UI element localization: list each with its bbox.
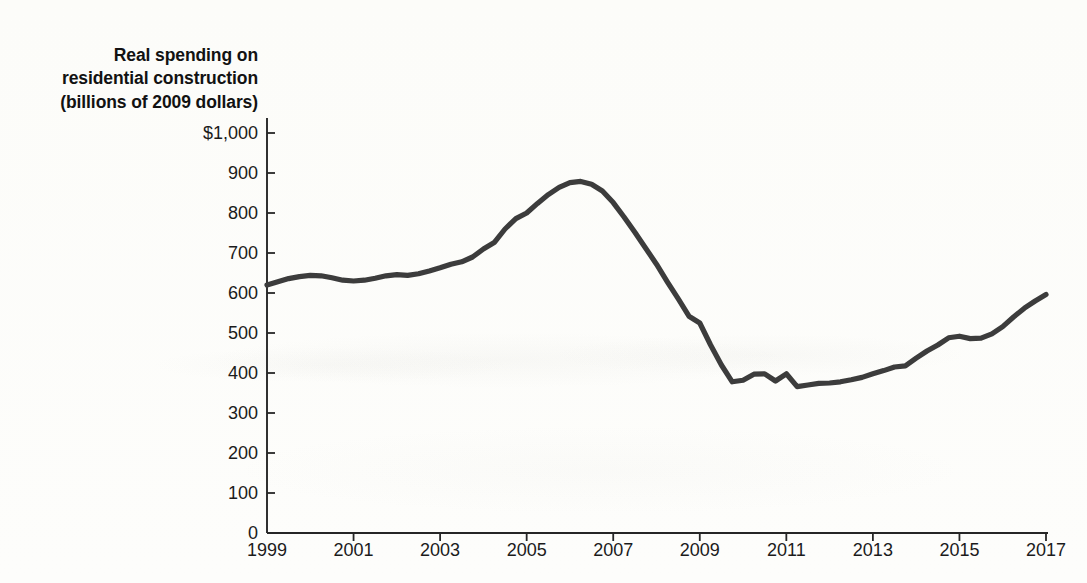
x-tick-label: 2009 [680, 540, 720, 561]
y-tick-label: 100 [150, 484, 258, 502]
y-tick-label: 0 [150, 524, 258, 542]
y-tick-label: 300 [150, 404, 258, 422]
x-tick-label: 2011 [767, 540, 806, 561]
x-tick-label: 2013 [853, 540, 893, 561]
x-tick-label: 1999 [247, 540, 287, 561]
y-tick-label: 400 [150, 364, 258, 382]
x-tick-label: 2003 [420, 540, 460, 561]
y-tick-label: 700 [150, 244, 258, 262]
y-tick-label: 500 [150, 324, 258, 342]
y-tick-label: 800 [150, 204, 258, 222]
data-series-line [267, 181, 1046, 386]
x-tick-label: 2017 [1026, 540, 1066, 561]
tick-marks [267, 133, 1046, 541]
y-tick-label: $1,000 [150, 124, 258, 142]
y-tick-label: 900 [150, 164, 258, 182]
y-tick-label: 600 [150, 284, 258, 302]
chart-figure: Real spending on residential constructio… [0, 0, 1087, 583]
x-tick-label: 2015 [939, 540, 979, 561]
x-tick-label: 2007 [593, 540, 633, 561]
x-tick-label: 2001 [334, 540, 374, 561]
y-tick-label: 200 [150, 444, 258, 462]
axis-lines [267, 118, 1048, 533]
x-tick-label: 2005 [507, 540, 547, 561]
